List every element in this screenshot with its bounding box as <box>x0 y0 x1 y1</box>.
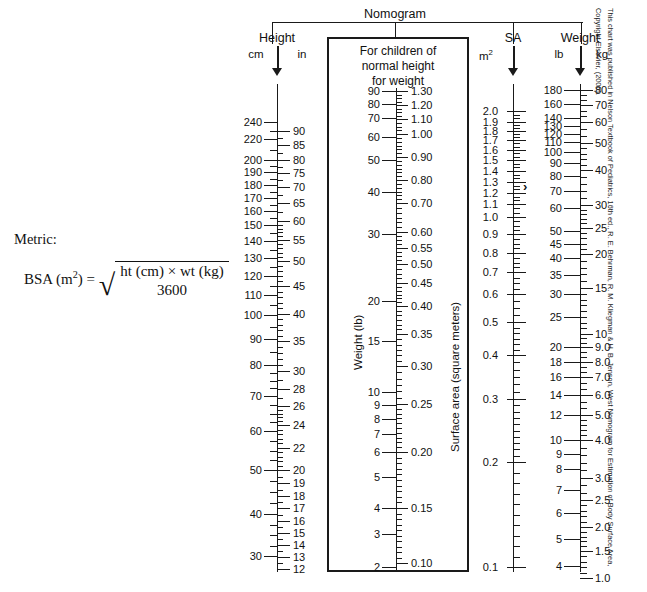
axis-tick <box>513 217 526 218</box>
axis-tick <box>564 415 580 416</box>
axis-tick <box>396 433 402 434</box>
axis-tick-label: 1.1 <box>458 199 498 210</box>
axis-tick <box>277 496 290 497</box>
axis-tick <box>396 536 402 537</box>
axis-tick <box>580 223 587 224</box>
axis-tick-label: 1.4 <box>458 166 498 177</box>
axis-tick <box>396 236 402 237</box>
axis-tick-label: 55 <box>293 235 305 246</box>
axis-tick <box>513 208 520 209</box>
axis-tick <box>513 456 520 457</box>
axis-tick <box>513 239 520 240</box>
axis-tick <box>396 320 402 321</box>
axis-tick <box>580 493 587 494</box>
axis-tick <box>396 306 408 307</box>
axis-tick <box>382 91 396 92</box>
axis-tick <box>396 379 402 380</box>
axis-tick <box>564 191 580 192</box>
axis-tick <box>564 440 580 441</box>
axis-tick-label: 1.30 <box>411 86 432 97</box>
axis-tick-label: 4 <box>522 561 562 572</box>
weight-unit-lb: lb <box>545 48 573 60</box>
axis-tick <box>580 505 587 506</box>
nomogram-title: Nomogram <box>332 7 458 21</box>
axis-tick <box>513 431 520 432</box>
axis-tick-label: 70 <box>222 391 262 402</box>
axis-tick <box>507 111 513 112</box>
axis-tick <box>277 539 283 540</box>
sa-unit-text: m <box>479 50 489 62</box>
axis-tick <box>277 406 290 407</box>
axis-tick <box>396 264 408 265</box>
axis-tick <box>513 263 520 264</box>
axis-tick <box>507 567 513 568</box>
axis-tick <box>396 172 402 173</box>
axis-tick <box>277 457 283 458</box>
axis-tick <box>382 405 396 406</box>
axis-tick-label: 30 <box>340 229 380 240</box>
sa-column-title: SA <box>490 31 536 45</box>
axis-tick-label: 90 <box>522 158 562 169</box>
axis-tick-label: 2 <box>340 562 380 573</box>
axis-tick <box>264 514 277 515</box>
axis-tick <box>277 515 283 516</box>
axis-tick-label: 20 <box>293 465 305 476</box>
axis-tick <box>264 211 277 212</box>
axis-tick <box>277 160 290 161</box>
axis-tick <box>580 367 587 368</box>
axis-tick-label: 2.0 <box>458 106 498 117</box>
axis-tick <box>580 148 587 149</box>
axis-tick <box>507 193 513 194</box>
axis-tick <box>513 226 520 227</box>
axis-tick-label: 180 <box>522 85 562 96</box>
axis-tick <box>270 422 277 423</box>
axis-tick <box>513 301 520 302</box>
axis-tick-label: 9 <box>340 400 380 411</box>
axis-tick-label: 7 <box>340 429 380 440</box>
axis-tick-label: 220 <box>222 134 262 145</box>
axis-tick <box>564 258 580 259</box>
axis-tick <box>507 182 513 183</box>
axis-tick <box>580 294 587 295</box>
axis-tick <box>507 140 513 141</box>
axis-tick <box>277 466 283 467</box>
axis-tick-label: 6 <box>522 508 562 519</box>
axis-tick <box>396 480 402 481</box>
axis-tick-label: 0.2 <box>458 457 498 468</box>
axis-tick <box>396 287 402 288</box>
axis-tick <box>580 516 587 517</box>
axis-tick-label: 0.50 <box>411 259 432 270</box>
axis-tick-label: 0.9 <box>458 229 498 240</box>
axis-tick <box>396 252 402 253</box>
axis-tick <box>396 547 402 548</box>
axis-tick <box>580 383 587 384</box>
axis-tick <box>564 317 580 318</box>
axis-tick <box>264 431 277 432</box>
axis-tick <box>396 176 402 177</box>
axis-tick <box>396 508 408 509</box>
axis-tick <box>277 131 290 132</box>
axis-tick <box>277 508 290 509</box>
axis-tick <box>277 308 283 309</box>
axis-tick <box>513 377 520 378</box>
axis-tick <box>264 396 277 397</box>
axis-tick-label: 80 <box>340 99 380 110</box>
axis-tick <box>277 417 283 418</box>
axis-tick <box>513 164 520 165</box>
axis-tick-label: 0.25 <box>411 399 432 410</box>
axis-tick <box>396 385 402 386</box>
axis-tick <box>396 213 402 214</box>
radical-icon: √ <box>99 270 115 300</box>
axis-tick-label: 50 <box>522 226 562 237</box>
axis-tick <box>513 339 520 340</box>
axis-tick <box>277 244 283 245</box>
axis-tick <box>277 380 283 381</box>
axis-tick <box>396 447 402 448</box>
axis-tick <box>277 347 283 348</box>
axis-tick <box>396 350 402 351</box>
axis-tick <box>580 311 587 312</box>
axis-tick <box>270 373 277 374</box>
axis-tick-label: 90 <box>222 334 262 345</box>
axis-tick <box>277 398 283 399</box>
axis-tick <box>396 315 402 316</box>
